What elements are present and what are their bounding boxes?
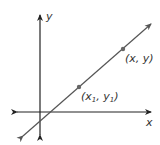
point-x1-y1-label: (x1, y1) — [81, 90, 119, 104]
point-x-y — [121, 47, 125, 51]
x-axis-label: x — [145, 116, 153, 129]
graph-line — [23, 24, 151, 136]
coordinate-plane: y x (x, y) (x1, y1) — [0, 0, 160, 145]
point-x-y-label: (x, y) — [125, 52, 154, 65]
point-x1-y1 — [77, 85, 81, 89]
y-axis-label: y — [45, 10, 53, 23]
